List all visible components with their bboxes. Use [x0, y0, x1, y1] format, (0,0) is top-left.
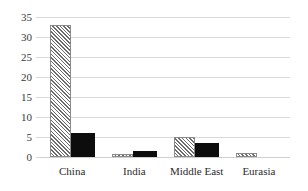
- bar-hatched: [50, 25, 71, 157]
- bar-group: [228, 17, 290, 157]
- x-category-label: India: [103, 165, 165, 178]
- y-tick-label-5: 5: [27, 132, 33, 143]
- bar-chart: 05101520253035 ChinaIndiaMiddle EastEura…: [0, 0, 308, 191]
- y-tick-label-25: 25: [21, 52, 32, 63]
- plot-area: 05101520253035: [41, 17, 290, 157]
- bar-solid: [133, 151, 157, 157]
- bar-group: [103, 17, 165, 157]
- y-tick-label-35: 35: [21, 12, 32, 23]
- bar-hatched: [236, 153, 257, 157]
- y-tick-label-30: 30: [21, 32, 32, 43]
- y-tick-0: [36, 157, 41, 158]
- y-tick-label-20: 20: [21, 72, 32, 83]
- bar-group: [166, 17, 228, 157]
- bar-group: [41, 17, 103, 157]
- y-tick-label-10: 10: [21, 112, 32, 123]
- x-category-label: Eurasia: [228, 165, 290, 178]
- bar-solid: [71, 133, 95, 157]
- y-tick-label-0: 0: [27, 152, 33, 163]
- bar-hatched: [174, 137, 195, 157]
- x-category-label: Middle East: [166, 165, 228, 178]
- gridline-0: [41, 157, 290, 158]
- y-tick-label-15: 15: [21, 92, 32, 103]
- bar-solid: [195, 143, 219, 157]
- x-category-label: China: [41, 165, 103, 178]
- bar-hatched: [112, 154, 133, 157]
